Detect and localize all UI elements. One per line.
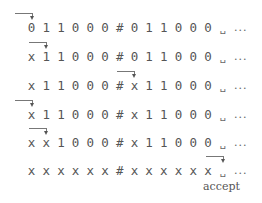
tape-cell: x [127, 161, 141, 181]
tape-ellipsis: ... [234, 18, 248, 38]
tape-cell: x [127, 105, 141, 125]
tape-cell: 1 [142, 133, 156, 153]
tape-cell: 0 [83, 105, 97, 125]
tape-cell: x [142, 161, 156, 181]
blank-symbol: ␣ [216, 18, 230, 40]
blank-symbol: ␣ [216, 105, 230, 127]
tape-cell: 1 [39, 105, 53, 125]
tape-cell: 0 [83, 47, 97, 67]
tape-row: x11000#x11000␣... [0, 76, 262, 96]
tape-row: xx1000#x11000␣... [0, 133, 262, 153]
tape-cell: x [54, 161, 68, 181]
tape-cell: 0 [172, 133, 186, 153]
tape-cell: 1 [142, 47, 156, 67]
tape-cell: x [201, 161, 215, 181]
tape-cell: x [186, 161, 200, 181]
separator-symbol: # [113, 161, 127, 181]
tape-cell: 0 [69, 105, 83, 125]
tape-cell: 0 [69, 76, 83, 96]
tape-cell: 1 [54, 76, 68, 96]
tape-cell: 0 [69, 18, 83, 38]
tape-cell: x [127, 76, 141, 96]
tape-cell: x [39, 133, 53, 153]
tape-row: x11000#x11000␣... [0, 105, 262, 125]
tape-cell: x [69, 161, 83, 181]
separator-symbol: # [113, 133, 127, 153]
tape-cell: 0 [98, 47, 112, 67]
tape-cell: x [25, 76, 39, 96]
tape-cell: x [25, 105, 39, 125]
tape-cell: 0 [98, 76, 112, 96]
tape-row: x11000#011000␣... [0, 47, 262, 67]
tape-cell: 1 [157, 105, 171, 125]
tape-cell: 0 [69, 47, 83, 67]
tape-cell: 0 [186, 47, 200, 67]
tape-cell: 1 [39, 76, 53, 96]
tape-cell: 0 [201, 76, 215, 96]
tape-cell: 1 [142, 76, 156, 96]
tape-row: 011000#011000␣... [0, 18, 262, 38]
tape-cell: 0 [201, 133, 215, 153]
tape-cell: x [127, 133, 141, 153]
tape-cell: 1 [157, 133, 171, 153]
tape-cell: 1 [39, 18, 53, 38]
tape-ellipsis: ... [234, 47, 248, 67]
tape-cell: 0 [186, 105, 200, 125]
tape-cell: x [98, 161, 112, 181]
tape-cell: 1 [157, 47, 171, 67]
tape-cell: 0 [69, 133, 83, 153]
tape-cell: 1 [54, 47, 68, 67]
tape-cell: 0 [25, 18, 39, 38]
tape-cell: x [39, 161, 53, 181]
tape-cell: 1 [157, 76, 171, 96]
tape-cell: 0 [186, 18, 200, 38]
tape-cell: 0 [172, 18, 186, 38]
tape-cell: 0 [83, 18, 97, 38]
tape-cell: 0 [127, 18, 141, 38]
tape-cell: x [25, 133, 39, 153]
tape-cell: 0 [201, 105, 215, 125]
tape-cell: 0 [186, 133, 200, 153]
tape-cell: 0 [98, 18, 112, 38]
tape-cell: 1 [54, 133, 68, 153]
tape-cell: 0 [98, 105, 112, 125]
tape-ellipsis: ... [234, 76, 248, 96]
separator-symbol: # [113, 18, 127, 38]
tape-cell: 0 [83, 133, 97, 153]
accept-state-label: accept [203, 180, 240, 193]
tape-cell: x [157, 161, 171, 181]
tape-cell: 1 [142, 18, 156, 38]
tape-cell: 0 [83, 76, 97, 96]
tape-cell: 0 [201, 47, 215, 67]
tape-diagram: 011000#011000␣...x11000#011000␣...x11000… [0, 0, 262, 203]
tape-cell: 0 [186, 76, 200, 96]
tape-cell: 0 [98, 133, 112, 153]
tape-cell: 1 [54, 18, 68, 38]
blank-symbol: ␣ [216, 47, 230, 69]
tape-cell: x [172, 161, 186, 181]
tape-cell: x [25, 161, 39, 181]
separator-symbol: # [113, 76, 127, 96]
tape-cell: 0 [201, 18, 215, 38]
tape-cell: x [25, 47, 39, 67]
tape-row: xxxxxx#xxxxxx␣... [0, 161, 262, 181]
tape-cell: 0 [172, 105, 186, 125]
tape-ellipsis: ... [234, 133, 248, 153]
blank-symbol: ␣ [216, 133, 230, 155]
tape-ellipsis: ... [234, 105, 248, 125]
blank-symbol: ␣ [216, 76, 230, 98]
tape-cell: 1 [142, 105, 156, 125]
tape-cell: 1 [39, 47, 53, 67]
tape-cell: 0 [172, 47, 186, 67]
separator-symbol: # [113, 47, 127, 67]
tape-cell: 0 [172, 76, 186, 96]
separator-symbol: # [113, 105, 127, 125]
tape-cell: 0 [127, 47, 141, 67]
tape-cell: 1 [54, 105, 68, 125]
tape-cell: x [83, 161, 97, 181]
tape-cell: 1 [157, 18, 171, 38]
tape-ellipsis: ... [234, 161, 248, 181]
